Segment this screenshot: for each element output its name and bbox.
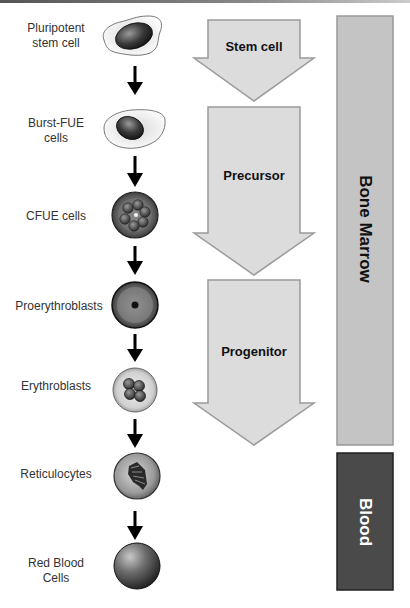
proerythroblast-cell-icon (112, 282, 158, 328)
region-label-blood: Blood (355, 492, 375, 552)
stage-label-precursor: Precursor (208, 168, 300, 183)
label-line: Red Blood (20, 556, 92, 571)
label-line: Erythroblasts (20, 379, 92, 394)
red-blood-cell-icon (114, 543, 160, 589)
stage-label-stem-cell: Stem cell (208, 39, 300, 54)
flow-arrow-4 (127, 334, 143, 362)
label-reticulocytes: Reticulocytes (20, 467, 92, 482)
flow-arrow-6 (127, 511, 143, 540)
stage-arrow-progenitor (194, 280, 314, 445)
stage-arrow-precursor (194, 107, 314, 275)
label-burst-fue: Burst-FUE cells (20, 116, 92, 146)
label-pluripotent-stem-cell: Pluripotent stem cell (20, 21, 92, 51)
flow-arrow-5 (127, 419, 143, 448)
label-line: CFUE cells (20, 209, 92, 224)
label-erythroblasts: Erythroblasts (20, 379, 92, 394)
label-line: Burst-FUE (20, 116, 92, 131)
region-label-bone-marrow: Bone Marrow (355, 169, 375, 289)
label-line: cells (20, 131, 92, 146)
erythroblast-cell-icon (113, 368, 157, 412)
reticulocyte-cell-icon (114, 453, 160, 499)
flow-arrow-3 (127, 246, 143, 275)
label-line: stem cell (20, 36, 92, 51)
stage-label-progenitor: Progenitor (208, 344, 300, 359)
stage-arrow-stem-cell (194, 20, 314, 101)
label-line: Proerythroblasts (14, 299, 104, 314)
label-proerythroblasts: Proerythroblasts (14, 299, 104, 314)
burst-fue-cell-icon (104, 110, 165, 149)
label-red-blood-cells: Red Blood Cells (20, 556, 92, 586)
label-line: Cells (20, 571, 92, 586)
cfue-cell-icon (112, 192, 158, 238)
label-cfue: CFUE cells (20, 209, 92, 224)
flow-arrow-1 (127, 66, 143, 95)
flow-arrow-2 (127, 156, 143, 187)
pluripotent-stem-cell-icon (103, 16, 161, 55)
label-line: Pluripotent (20, 21, 92, 36)
label-line: Reticulocytes (20, 467, 92, 482)
